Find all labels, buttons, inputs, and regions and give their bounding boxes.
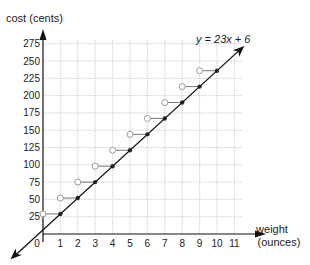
grid-lines xyxy=(43,40,242,234)
open-circle-marker xyxy=(110,147,116,153)
y-tick-label: 100 xyxy=(23,159,40,170)
x-axis-label-line1: weight xyxy=(255,223,288,235)
y-tick-label: 250 xyxy=(23,56,40,67)
open-circle-marker xyxy=(144,115,150,121)
x-tick-label: 3 xyxy=(92,238,98,249)
y-axis-label: cost (cents) xyxy=(6,12,63,24)
trend-line xyxy=(13,48,243,258)
x-tick-label: 9 xyxy=(197,238,203,249)
open-circle-marker xyxy=(127,131,133,137)
open-circle-marker xyxy=(40,211,46,217)
open-circle-marker xyxy=(162,100,168,106)
y-tick-label: 25 xyxy=(29,211,41,222)
y-tick-label: 125 xyxy=(23,142,40,153)
x-tick-label: 2 xyxy=(75,238,81,249)
y-tick-label: 200 xyxy=(23,90,40,101)
x-tick-label: 11 xyxy=(229,238,240,249)
x-tick-label: 4 xyxy=(110,238,116,249)
x-tick-label: 5 xyxy=(127,238,133,249)
y-tick-label: 50 xyxy=(29,194,41,205)
open-circle-marker xyxy=(57,195,63,201)
y-tick-label: 225 xyxy=(23,73,40,84)
x-tick-label: 1 xyxy=(58,238,64,249)
y-tick-label: 150 xyxy=(23,125,40,136)
x-tick-label: 7 xyxy=(162,238,168,249)
y-axis-arrow-icon xyxy=(40,29,47,40)
chart: 1234567891011255075100125150175200225250… xyxy=(0,0,310,265)
x-tick-label: 8 xyxy=(179,238,185,249)
x-axis-label-line2: (ounces) xyxy=(258,236,301,248)
open-circle-marker xyxy=(92,163,98,169)
equation-label: y = 23x + 6 xyxy=(195,33,251,45)
x-tick-label: 6 xyxy=(145,238,151,249)
origin-label: 0 xyxy=(34,238,40,249)
open-circle-marker xyxy=(179,84,185,90)
y-tick-label: 75 xyxy=(29,177,41,188)
y-tick-label: 175 xyxy=(23,107,40,118)
x-tick-label: 10 xyxy=(211,238,223,249)
y-tick-label: 275 xyxy=(23,38,40,49)
open-circle-marker xyxy=(75,179,81,185)
open-circle-marker xyxy=(197,68,203,74)
